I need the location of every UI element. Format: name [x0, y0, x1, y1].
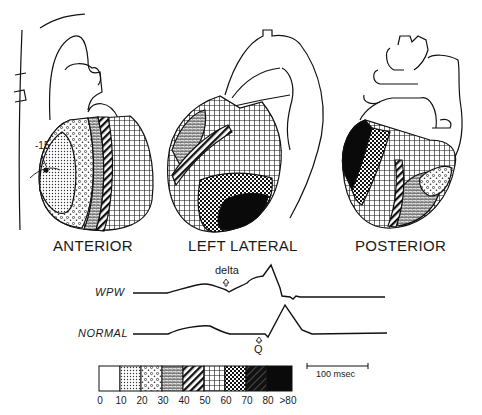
legend-tick: 20 [136, 395, 147, 406]
legend-tick: 70 [241, 395, 252, 406]
delta-arrow-icon [223, 279, 229, 286]
delta-marker-label: delta [215, 264, 239, 276]
scale-bar-label: 100 msec [316, 369, 355, 379]
legend-bar [99, 366, 292, 391]
legend-tick: >80 [280, 395, 297, 406]
legend-tick: 40 [178, 395, 189, 406]
anterior-heart [14, 14, 153, 231]
wpw-trace [133, 265, 385, 299]
normal-label: NORMAL [78, 327, 128, 339]
ecg-traces [133, 265, 387, 337]
anterior-annotation: -15 [35, 140, 49, 151]
normal-trace [133, 305, 387, 337]
posterior-heart [342, 36, 462, 228]
legend-tick: 30 [157, 395, 168, 406]
legend-tick: 60 [220, 395, 231, 406]
q-marker-label: Q [254, 343, 263, 355]
figure-canvas [0, 0, 482, 415]
left-lateral-heart [168, 30, 324, 232]
wpw-label: WPW [95, 286, 125, 298]
view-label-posterior: POSTERIOR [355, 237, 446, 254]
legend-tick: 10 [115, 395, 126, 406]
view-label-anterior: ANTERIOR [53, 237, 133, 254]
view-label-left-lateral: LEFT LATERAL [188, 237, 298, 254]
legend-tick: 80 [262, 395, 273, 406]
legend-tick: 0 [97, 395, 103, 406]
legend-tick: 50 [199, 395, 210, 406]
